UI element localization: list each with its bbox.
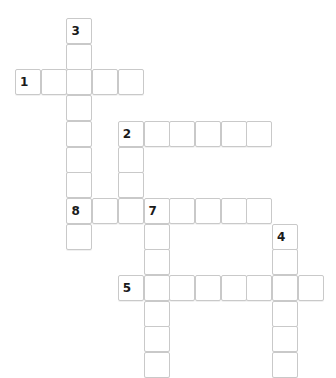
crossword-cell[interactable] <box>144 275 170 301</box>
crossword-cell[interactable] <box>144 121 170 147</box>
crossword-cell[interactable] <box>144 326 170 352</box>
crossword-cell[interactable] <box>195 275 221 301</box>
crossword-cell[interactable] <box>272 275 298 301</box>
crossword-cell[interactable] <box>272 301 298 327</box>
crossword-cell[interactable] <box>41 69 67 95</box>
crossword-cell[interactable] <box>221 275 247 301</box>
crossword-cell-numbered-8[interactable]: 8 <box>66 198 92 224</box>
clue-number: 8 <box>71 202 79 221</box>
crossword-cell[interactable] <box>221 198 247 224</box>
crossword-cell[interactable] <box>169 121 195 147</box>
crossword-cell[interactable] <box>246 121 272 147</box>
clue-number: 4 <box>277 228 285 247</box>
crossword-cell-numbered-4[interactable]: 4 <box>272 224 298 250</box>
crossword-cell[interactable] <box>272 249 298 275</box>
crossword-cell[interactable] <box>118 198 144 224</box>
crossword-cell[interactable] <box>92 69 118 95</box>
crossword-cell[interactable] <box>144 249 170 275</box>
crossword-cell-numbered-1[interactable]: 1 <box>15 69 41 95</box>
clue-number: 2 <box>123 125 131 144</box>
crossword-cell[interactable] <box>66 69 92 95</box>
crossword-cell-numbered-5[interactable]: 5 <box>118 275 144 301</box>
clue-number: 3 <box>71 22 79 41</box>
crossword-cell[interactable] <box>298 275 324 301</box>
crossword-cell[interactable] <box>66 224 92 250</box>
crossword-cell[interactable] <box>144 224 170 250</box>
crossword-cell[interactable] <box>246 198 272 224</box>
crossword-cell[interactable] <box>66 121 92 147</box>
crossword-cell[interactable] <box>92 198 118 224</box>
crossword-cell-numbered-3[interactable]: 3 <box>66 18 92 44</box>
crossword-cell[interactable] <box>118 69 144 95</box>
crossword-cell[interactable] <box>66 172 92 198</box>
crossword-cell[interactable] <box>169 275 195 301</box>
crossword-cell[interactable] <box>272 326 298 352</box>
crossword-cell[interactable] <box>272 352 298 378</box>
crossword-cell[interactable] <box>221 121 247 147</box>
crossword-cell[interactable] <box>66 44 92 70</box>
crossword-cell[interactable] <box>118 147 144 173</box>
crossword-cell[interactable] <box>195 121 221 147</box>
crossword-cell[interactable] <box>144 301 170 327</box>
crossword-cell-numbered-7[interactable]: 7 <box>144 198 170 224</box>
crossword-cell-numbered-2[interactable]: 2 <box>118 121 144 147</box>
crossword-cell[interactable] <box>144 352 170 378</box>
crossword-cell[interactable] <box>118 172 144 198</box>
crossword-cell[interactable] <box>169 198 195 224</box>
crossword-cell[interactable] <box>66 147 92 173</box>
clue-number: 1 <box>20 73 28 92</box>
crossword-cell[interactable] <box>195 198 221 224</box>
clue-number: 7 <box>149 202 157 221</box>
crossword-cell[interactable] <box>66 95 92 121</box>
crossword-cell[interactable] <box>246 275 272 301</box>
clue-number: 5 <box>123 279 131 298</box>
